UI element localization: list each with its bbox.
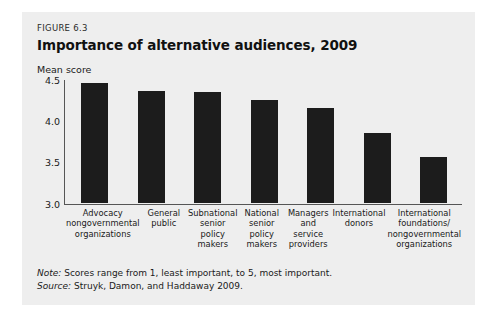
x-axis-category-line: senior <box>239 218 284 228</box>
bar-chart: 3.03.54.04.5 <box>37 80 462 210</box>
figure-footnotes: Note: Scores range from 1, least importa… <box>37 267 463 293</box>
y-axis-tick-label: 3.5 <box>45 157 60 168</box>
x-axis-category-label: Advocacynongovernmentalorganizations <box>65 208 141 249</box>
x-axis-category-line: organizations <box>387 239 461 249</box>
x-axis-category-label: Internationaldonors <box>331 208 386 249</box>
bar[interactable] <box>138 91 165 202</box>
x-axis-category-label: Nationalseniorpolicy makers <box>238 208 285 249</box>
source-label: Source: <box>37 281 71 291</box>
x-axis-category-label: Subnationalseniorpolicy makers <box>187 208 238 249</box>
x-axis-category-line: foundations/ <box>387 218 461 228</box>
x-axis-category-line: and service <box>286 218 331 239</box>
x-axis-category-line: organizations <box>66 229 140 239</box>
x-axis-category-line: public <box>142 218 187 228</box>
x-axis-category-label: Internationalfoundations/nongovernmental… <box>386 208 462 249</box>
y-axis-ticks: 3.03.54.04.5 <box>37 80 62 210</box>
x-axis-category-line: Managers <box>286 208 331 218</box>
plot-area <box>64 80 462 205</box>
bar-slot <box>236 80 293 203</box>
note-line: Note: Scores range from 1, least importa… <box>37 267 463 280</box>
y-axis-tick-label: 4.0 <box>45 116 60 127</box>
page-title: Importance of alternative audiences, 200… <box>37 37 357 53</box>
x-axis-category-line: General <box>142 208 187 218</box>
x-axis-category-line: policy makers <box>188 229 237 250</box>
bar[interactable] <box>420 157 447 202</box>
note-text: Scores range from 1, least important, to… <box>61 268 332 278</box>
y-axis-tick-label: 4.5 <box>45 75 60 86</box>
x-axis-categories: AdvocacynongovernmentalorganizationsGene… <box>65 208 462 249</box>
bar-slot <box>293 80 350 203</box>
x-axis-category-line: nongovernmental <box>66 218 140 228</box>
figure-number: FIGURE 6.3 <box>37 23 88 33</box>
bar[interactable] <box>251 100 278 203</box>
y-axis-title: Mean score <box>37 64 91 75</box>
x-axis-category-line: donors <box>332 218 385 228</box>
note-label: Note: <box>37 268 61 278</box>
x-axis-category-line: senior <box>188 218 237 228</box>
x-axis-category-line: National <box>239 208 284 218</box>
x-axis-category-line: providers <box>286 239 331 249</box>
x-axis-category-line: Subnational <box>188 208 237 218</box>
bar-slot <box>67 80 124 203</box>
x-axis-category-line: International <box>387 208 461 218</box>
bar[interactable] <box>194 92 221 202</box>
bar[interactable] <box>307 108 334 203</box>
source-line: Source: Struyk, Damon, and Haddaway 2009… <box>37 280 463 293</box>
bar[interactable] <box>364 133 391 202</box>
bar-slot <box>180 80 237 203</box>
x-axis-category-line: Advocacy <box>66 208 140 218</box>
x-axis-category-line: policy makers <box>239 229 284 250</box>
bar-slot <box>349 80 406 203</box>
x-axis-category-line: nongovernmental <box>387 229 461 239</box>
bar-slot <box>123 80 180 203</box>
bars-container <box>67 80 463 203</box>
x-axis-category-line: International <box>332 208 385 218</box>
x-axis-category-label: Generalpublic <box>141 208 188 249</box>
source-text: Struyk, Damon, and Haddaway 2009. <box>71 281 243 291</box>
y-axis-tick-label: 3.0 <box>45 198 60 209</box>
figure-panel: FIGURE 6.3 Importance of alternative aud… <box>22 12 475 305</box>
bar[interactable] <box>81 83 108 202</box>
bar-slot <box>406 80 463 203</box>
x-axis-category-label: Managersand serviceproviders <box>285 208 332 249</box>
